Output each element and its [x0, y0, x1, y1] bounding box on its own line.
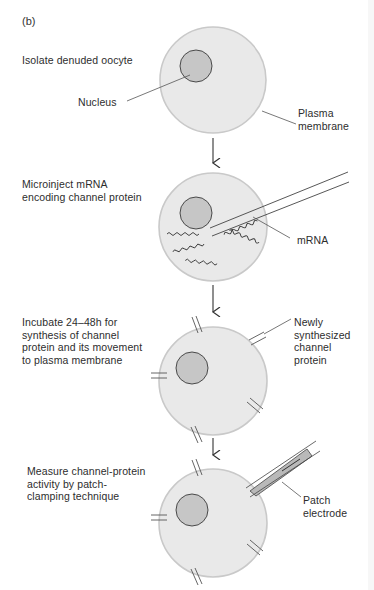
- channel-protein-label: Newly synthesized channel protein: [294, 316, 351, 366]
- patch-electrode: [246, 441, 320, 497]
- cell-membrane: [159, 327, 267, 435]
- step-1-instruction: Isolate denuded oocyte: [22, 54, 133, 67]
- nucleus: [176, 352, 208, 384]
- nucleus: [176, 494, 208, 526]
- step-3-oocyte: [151, 316, 291, 443]
- electrode-leader-line: [282, 482, 301, 497]
- channel-leader-line: [264, 319, 291, 334]
- nucleus-label: Nucleus: [78, 96, 117, 109]
- patch-electrode-label: Patch electrode: [303, 494, 347, 519]
- step-1-oocyte: [127, 27, 296, 133]
- step-2-oocyte: [159, 172, 349, 281]
- plasma-membrane-label: Plasma membrane: [298, 107, 349, 132]
- nucleus: [180, 197, 212, 229]
- cell-membrane: [160, 27, 266, 133]
- step-3-instruction: Incubate 24–48h for synthesis of channel…: [22, 316, 142, 366]
- panel-label: (b): [22, 15, 35, 27]
- step-2-instruction: Microinject mRNA encoding channel protei…: [22, 178, 142, 203]
- mrna-label: mRNA: [297, 234, 328, 247]
- step-4-instruction: Measure channel-protein activity by patc…: [27, 465, 145, 503]
- membrane-leader-line: [262, 111, 296, 124]
- step-4-oocyte: [151, 441, 320, 585]
- oocyte-expression-diagram: (b) Isolate denuded oocyte Nucleus Plasm…: [0, 0, 374, 590]
